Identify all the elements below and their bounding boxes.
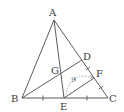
label-a: A (48, 7, 57, 18)
segment-ab (22, 20, 54, 98)
geometry-diagram: A B C D E F G 9 (0, 0, 124, 112)
label-b: B (11, 93, 18, 104)
label-f: F (96, 68, 103, 79)
measure-label: 9 (71, 75, 76, 84)
segment-ef (64, 78, 94, 98)
label-e: E (60, 101, 67, 112)
diagram-canvas: A B C D E F G 9 (0, 0, 124, 112)
label-d: D (83, 51, 91, 62)
label-g: G (51, 65, 59, 76)
label-c: C (109, 93, 117, 104)
dashed-measure-arc (66, 76, 92, 95)
